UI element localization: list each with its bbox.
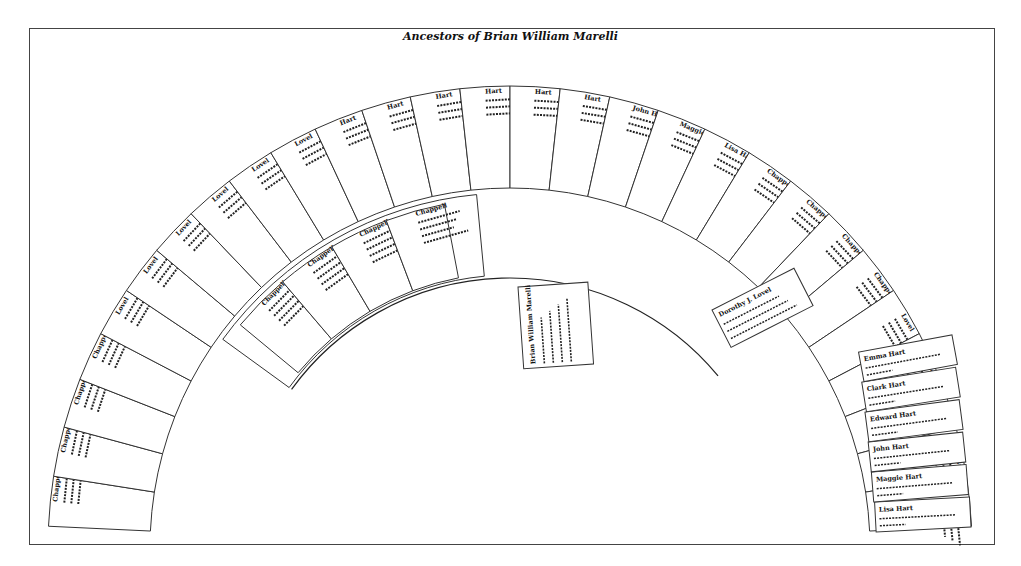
ancestor-name: Hart bbox=[485, 87, 502, 96]
root-person-box[interactable]: Brian William Marelli bbox=[518, 280, 594, 369]
generation-3-ring: ChappellChappellChappellChappellLovelLov… bbox=[49, 85, 973, 546]
fan-chart: ChappellChappellChappellChappellLovelLov… bbox=[0, 0, 1021, 566]
ancestor-box[interactable]: Lisa Hart bbox=[875, 497, 971, 532]
right-bottom-stack: Lisa HartMaggie HartJohn HartEdward Hart… bbox=[859, 335, 971, 532]
ancestor-name: Hart bbox=[535, 88, 552, 97]
